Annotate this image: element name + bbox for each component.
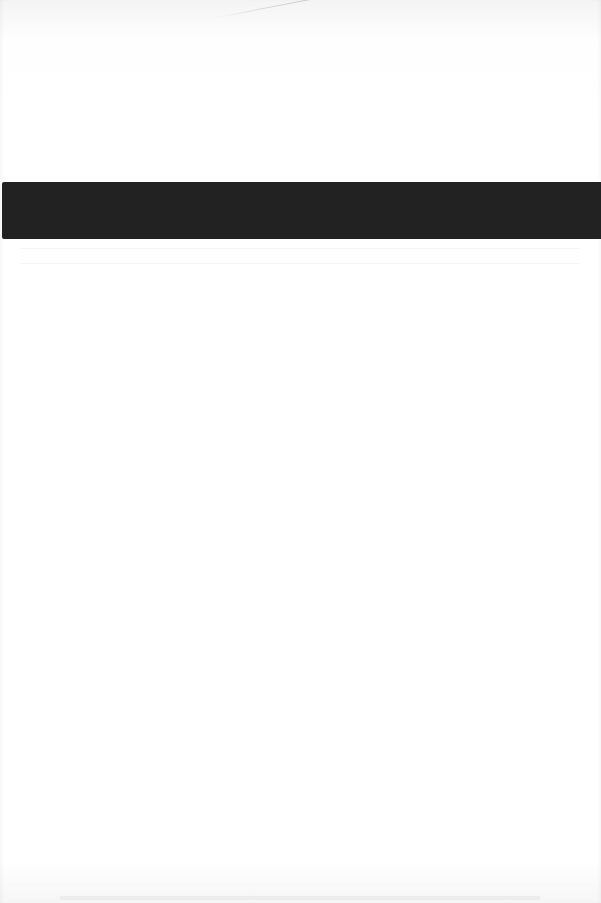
bleed-through-line (20, 263, 580, 264)
document-page (0, 0, 601, 903)
bleed-through-line (20, 248, 580, 249)
scan-artifact-streak (212, 0, 345, 19)
scan-artifact-bottom (60, 896, 540, 900)
redaction-bar (2, 182, 601, 239)
